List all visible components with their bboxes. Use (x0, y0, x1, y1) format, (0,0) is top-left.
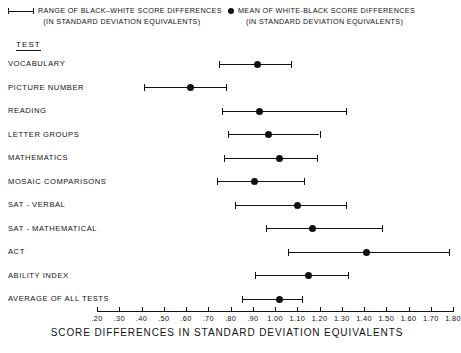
range-cap-high (320, 131, 321, 138)
row-label: READING (8, 104, 46, 118)
range-cap-low (266, 225, 267, 232)
x-axis: .20.30.40.50.60.70.80.901.001.101.201.30… (0, 311, 454, 353)
range-cap-high (226, 84, 227, 91)
axis-tick-label: 1.60 (401, 314, 417, 323)
range-cap-high (346, 202, 347, 209)
row-label: ACT (8, 245, 25, 259)
axis-tick-label: 1.10 (289, 314, 305, 323)
range-cap-low (242, 296, 243, 303)
axis-tick (275, 307, 276, 312)
axis-tick (320, 307, 321, 312)
range-cap-high (346, 108, 347, 115)
axis-tick (142, 307, 143, 312)
chart-row: AVERAGE OF ALL TESTS (0, 292, 454, 306)
axis-tick (297, 307, 298, 312)
axis-tick (119, 307, 120, 312)
axis-tick-label: 1.50 (378, 314, 394, 323)
mean-dot (305, 272, 312, 279)
row-label: PICTURE NUMBER (8, 81, 84, 95)
range-cap-high (449, 249, 450, 256)
axis-tick (386, 307, 387, 312)
axis-tick (231, 307, 232, 312)
axis-tick (164, 307, 165, 312)
range-cap-low (288, 249, 289, 256)
row-label: VOCABULARY (8, 57, 65, 71)
range-segment (266, 228, 382, 229)
range-segment (228, 134, 319, 135)
mean-dot (254, 61, 261, 68)
chart-row: READING (0, 104, 454, 118)
axis-tick (253, 307, 254, 312)
axis-tick (409, 307, 410, 312)
axis-tick-label: .80 (225, 314, 236, 323)
range-segment (242, 299, 302, 300)
range-cap-high (317, 155, 318, 162)
range-segment (235, 205, 346, 206)
axis-tick (97, 307, 98, 312)
axis-tick (186, 307, 187, 312)
row-label: SAT - VERBAL (8, 198, 65, 212)
axis-tick-label: .90 (247, 314, 258, 323)
axis-tick-label: 1.30 (334, 314, 350, 323)
mean-dot (309, 225, 316, 232)
mean-dot (294, 202, 301, 209)
range-segment (224, 158, 317, 159)
range-cap-high (302, 296, 303, 303)
chart-row: ABILITY INDEX (0, 269, 454, 283)
axis-tick (364, 307, 365, 312)
range-segment (222, 111, 347, 112)
mean-dot (363, 249, 370, 256)
chart-row: SAT - VERBAL (0, 198, 454, 212)
chart-row: VOCABULARY (0, 57, 454, 71)
axis-tick (453, 307, 454, 312)
chart-row: MATHEMATICS (0, 151, 454, 165)
range-cap-high (304, 178, 305, 185)
axis-tick-label: 1.70 (423, 314, 439, 323)
row-label: LETTER GROUPS (8, 128, 79, 142)
range-cap-low (235, 202, 236, 209)
chart-row: LETTER GROUPS (0, 128, 454, 142)
axis-tick-label: .30 (114, 314, 125, 323)
axis-tick-label: 1.20 (312, 314, 328, 323)
axis-tick (431, 307, 432, 312)
axis-tick-label: .60 (180, 314, 191, 323)
mean-dot (276, 296, 283, 303)
range-cap-low (144, 84, 145, 91)
range-cap-high (291, 61, 292, 68)
mean-dot (187, 84, 194, 91)
axis-tick (208, 307, 209, 312)
axis-tick-label: 1.00 (267, 314, 283, 323)
range-segment (144, 87, 226, 88)
mean-dot (265, 131, 272, 138)
range-cap-low (255, 272, 256, 279)
axis-tick-label: .40 (136, 314, 147, 323)
mean-dot (251, 178, 258, 185)
range-cap-low (228, 131, 229, 138)
range-segment (217, 181, 304, 182)
range-cap-low (222, 108, 223, 115)
row-label: MOSAIC COMPARISONS (8, 175, 106, 189)
mean-dot (276, 155, 283, 162)
range-cap-high (348, 272, 349, 279)
axis-tick-label: .20 (91, 314, 102, 323)
row-label: AVERAGE OF ALL TESTS (8, 292, 109, 306)
range-cap-low (224, 155, 225, 162)
range-cap-low (217, 178, 218, 185)
axis-tick-label: .70 (203, 314, 214, 323)
mean-dot (256, 108, 263, 115)
chart-row: SAT - MATHEMATICAL (0, 222, 454, 236)
range-cap-low (219, 61, 220, 68)
row-label: SAT - MATHEMATICAL (8, 222, 97, 236)
chart-row: ACT (0, 245, 454, 259)
chart-rows: VOCABULARYPICTURE NUMBERREADINGLETTER GR… (0, 0, 454, 300)
x-axis-title: SCORE DIFFERENCES IN STANDARD DEVIATION … (0, 327, 454, 338)
axis-tick-label: 1.40 (356, 314, 372, 323)
chart-row: MOSAIC COMPARISONS (0, 175, 454, 189)
row-label: ABILITY INDEX (8, 269, 69, 283)
row-label: MATHEMATICS (8, 151, 68, 165)
range-segment (255, 275, 348, 276)
chart-row: PICTURE NUMBER (0, 81, 454, 95)
axis-tick (342, 307, 343, 312)
range-cap-high (382, 225, 383, 232)
